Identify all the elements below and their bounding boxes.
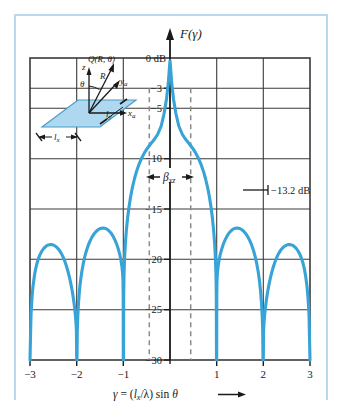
inset-label-z: z: [81, 62, 86, 72]
inset-label-R: R: [99, 71, 106, 81]
y-tick-label-m30: −30: [146, 355, 162, 366]
radiation-pattern-chart: 0 dB −3 −5 −10 −15 −20 −25 −30 F(γ) −3 −…: [0, 0, 340, 414]
y-tick-label-m15: −15: [146, 204, 162, 215]
sidelobe-label-text: −13.2 dB: [271, 185, 310, 196]
x-tick-label-m3: −3: [24, 368, 36, 380]
inset-R-arrowhead: [109, 63, 115, 73]
x-axis-title: γ = (lx/λ) sin θ: [113, 388, 246, 402]
y-axis-title: F(γ): [179, 26, 202, 41]
x-tick-label-m2: −2: [71, 368, 83, 380]
y-tick-label-m20: −20: [146, 254, 162, 265]
geometry-inset: z R θ Q(R, θ) ya xa: [36, 54, 136, 144]
inset-label-ya: ya: [119, 76, 128, 88]
inset-z-arrowhead: [87, 67, 92, 75]
y-axis-title-text: F(γ): [179, 26, 202, 41]
inset-label-xa: xa: [127, 108, 136, 120]
x-tick-label-m1: −1: [117, 368, 129, 380]
inset-label-Q: Q(R, θ): [88, 54, 115, 64]
x-tick-label-1: 1: [214, 368, 220, 380]
x-axis-ticks: [30, 360, 310, 366]
figure-container: 0 dB −3 −5 −10 −15 −20 −25 −30 F(γ) −3 −…: [0, 0, 340, 414]
y-tick-label-m10: −10: [146, 153, 162, 164]
x-axis-title-text: γ = (lx/λ) sin θ: [113, 388, 178, 402]
x-axis-tick-labels: −3 −2 −1 1 2 3: [24, 368, 313, 380]
x-tick-label-2: 2: [261, 368, 267, 380]
x-tick-label-3: 3: [307, 368, 313, 380]
y-tick-label-0: 0 dB: [146, 53, 166, 64]
y-tick-label-m25: −25: [146, 304, 162, 315]
y-tick-label-m5: −5: [151, 103, 162, 114]
sidelobe-annotation: −13.2 dB: [243, 185, 310, 196]
beamwidth-annotation: βxz: [146, 168, 194, 185]
y-tick-label-m3: −3: [151, 83, 162, 94]
inset-label-theta: θ: [80, 79, 85, 89]
